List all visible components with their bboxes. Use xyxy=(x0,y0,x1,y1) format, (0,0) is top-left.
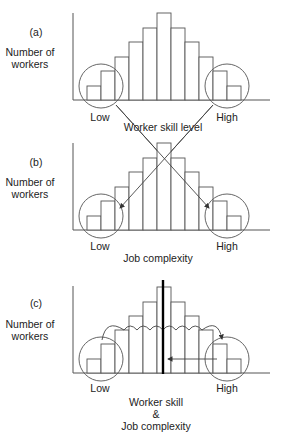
panel-a: (a) Number of workers Low High Worker sk… xyxy=(5,13,270,133)
panel-a-high-label: High xyxy=(216,111,238,123)
panel-a-low-label: Low xyxy=(90,111,110,123)
panel-b: (b) Number of workers Low High Job compl… xyxy=(5,105,270,264)
panel-a-ylabel-1: Number of xyxy=(5,46,54,58)
panel-b-ylabel-1: Number of xyxy=(5,176,54,188)
panel-c-low-label: Low xyxy=(90,382,110,394)
panel-c-tag: (c) xyxy=(30,297,42,309)
panel-c-xlabel-1: Worker skill xyxy=(129,396,183,408)
panel-b-tag: (b) xyxy=(30,156,43,168)
panel-b-high-label: High xyxy=(216,240,238,252)
diagram-canvas: (a) Number of workers Low High Worker sk… xyxy=(0,0,284,439)
panel-b-ylabel-2: workers xyxy=(11,188,49,200)
panel-c-xlabel-2: & xyxy=(152,408,159,420)
panel-b-xlabel: Job complexity xyxy=(123,252,193,264)
panel-c-xlabel-3: Job complexity xyxy=(121,420,191,432)
panel-b-bars xyxy=(87,143,241,230)
panel-c: (c) Number of workers Low High Worker sk… xyxy=(5,280,270,432)
panel-a-ylabel-2: workers xyxy=(11,58,49,70)
panel-c-ylabel-2: workers xyxy=(11,330,49,342)
panel-a-tag: (a) xyxy=(30,26,43,38)
panel-c-ylabel-1: Number of xyxy=(5,318,54,330)
panel-b-low-label: Low xyxy=(90,240,110,252)
panel-a-bars xyxy=(87,13,241,100)
panel-c-high-label: High xyxy=(216,382,238,394)
